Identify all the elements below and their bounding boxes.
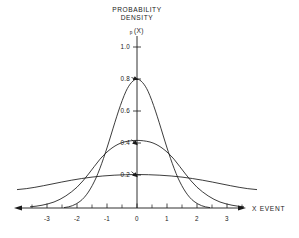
x-axis-label: X EVENT [252, 205, 285, 212]
figure-container: PROBABILITY DENSITY p (X) X EVENT [0, 0, 299, 238]
x-tick-label-neg1: -1 [104, 215, 110, 222]
y-tick-label-0-6: 0.6 [120, 107, 130, 114]
x-tick-label-neg3: -3 [44, 215, 50, 222]
x-tick-label-3: 3 [225, 215, 229, 222]
x-axis-left-arrow-icon [14, 205, 22, 210]
x-tick-label-0: 0 [135, 215, 139, 222]
y-axis-label: (X) [134, 27, 144, 35]
x-tick-label-2: 2 [195, 215, 199, 222]
y-tick-label-0-8: 0.8 [120, 75, 130, 82]
plot-title-line2: DENSITY [121, 14, 153, 21]
y-tick-label-1-0: 1.0 [120, 43, 130, 50]
x-tick-label-neg2: -2 [74, 215, 80, 222]
x-axis-major-ticks [47, 204, 227, 209]
x-tick-label-1: 1 [165, 215, 169, 222]
y-axis-label-sub: p [130, 30, 133, 35]
plot-title-line1: PROBABILITY [112, 6, 161, 13]
probability-density-plot: PROBABILITY DENSITY p (X) X EVENT [0, 0, 299, 238]
